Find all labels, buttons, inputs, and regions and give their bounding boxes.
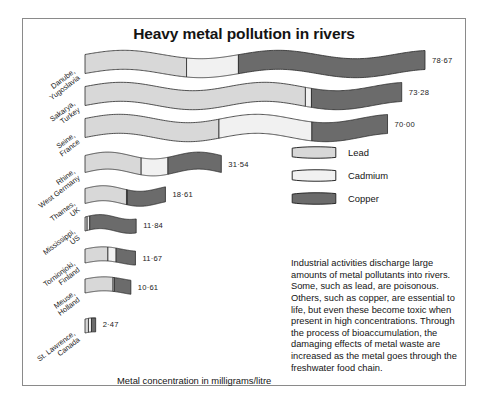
bar-value-label: 78·67 xyxy=(432,56,452,65)
bar-segment-copper[interactable] xyxy=(114,278,130,295)
bar-value-label: 11·84 xyxy=(143,221,163,230)
bar-segment-cadmium[interactable] xyxy=(187,55,239,78)
bar-segment-copper[interactable] xyxy=(90,215,136,234)
bar-segment-lead[interactable] xyxy=(85,186,126,205)
bar-value-label: 73·28 xyxy=(409,88,429,97)
stacked-bar xyxy=(23,271,141,301)
bar-row: 73·28Sakarya,Turkey xyxy=(23,81,467,111)
legend-swatch-copper xyxy=(291,191,337,206)
explanatory-paragraph: Industrial activities discharge large am… xyxy=(291,258,465,374)
legend-swatch-cadmium xyxy=(291,168,337,183)
stacked-bar xyxy=(23,49,435,79)
bar-segment-copper[interactable] xyxy=(311,83,401,110)
stacked-bar xyxy=(23,241,145,271)
stacked-bar xyxy=(23,181,175,211)
legend-item-copper[interactable]: Copper xyxy=(291,189,431,208)
bar-segment-copper[interactable] xyxy=(312,115,388,142)
stacked-bar xyxy=(23,149,231,179)
bar-value-label: 18·61 xyxy=(172,190,192,199)
stacked-bar xyxy=(23,209,146,239)
stacked-bar xyxy=(23,113,398,143)
bar-segment-cadmium[interactable] xyxy=(108,247,116,262)
bar-segment-lead[interactable] xyxy=(85,277,113,293)
bar-segment-lead[interactable] xyxy=(85,50,187,77)
bar-value-label: 10·61 xyxy=(138,283,158,292)
bar-segment-cadmium[interactable] xyxy=(141,157,168,176)
bar-segment-lead[interactable] xyxy=(85,82,305,109)
legend-label: Lead xyxy=(348,147,369,158)
stacked-bar xyxy=(23,81,412,111)
legend-label: Cadmium xyxy=(348,170,388,181)
bar-segment-copper[interactable] xyxy=(238,50,425,77)
bar-value-label: 2·47 xyxy=(103,320,119,329)
bar-row: 70·00Seine,France xyxy=(23,113,467,143)
bar-segment-copper[interactable] xyxy=(127,187,165,206)
legend-label: Copper xyxy=(348,193,379,204)
poster-frame: Heavy metal pollution in rivers 78·67Dan… xyxy=(22,18,466,386)
bar-value-label: 70·00 xyxy=(395,120,415,129)
bar-row: 11·84Mississippi,US xyxy=(23,209,467,239)
chart-legend: LeadCadmiumCopper xyxy=(291,143,431,212)
bar-segment-copper[interactable] xyxy=(91,318,95,332)
legend-swatch-lead xyxy=(291,145,337,160)
bar-row: 78·67Danube,Yugoslavia xyxy=(23,49,467,79)
bar-segment-cadmium[interactable] xyxy=(219,114,312,141)
bar-segment-lead[interactable] xyxy=(85,318,88,333)
bar-segment-lead[interactable] xyxy=(85,152,141,175)
legend-item-lead[interactable]: Lead xyxy=(291,143,431,162)
bar-segment-copper[interactable] xyxy=(116,248,135,265)
legend-item-cadmium[interactable]: Cadmium xyxy=(291,166,431,185)
bar-value-label: 31·54 xyxy=(228,160,248,169)
bar-segment-lead[interactable] xyxy=(85,247,108,263)
bar-segment-cadmium[interactable] xyxy=(305,87,311,107)
axis-caption: Metal concentration in milligrams/litre xyxy=(117,375,271,386)
bar-segment-cadmium[interactable] xyxy=(88,318,91,332)
bar-segment-copper[interactable] xyxy=(168,152,221,174)
bar-segment-lead[interactable] xyxy=(85,114,219,141)
bar-value-label: 11·67 xyxy=(142,254,162,263)
